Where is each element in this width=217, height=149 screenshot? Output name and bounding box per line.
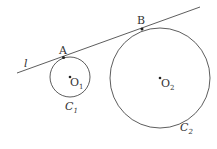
- tangent-point-b: [141, 28, 144, 31]
- point-label-b: B: [137, 15, 145, 26]
- center-label-o2: O2: [161, 78, 175, 92]
- circle-label-c2-sub: 2: [188, 128, 192, 136]
- center-label-o1: O1: [70, 77, 84, 91]
- tangent-circles-diagram: l A B O1 O2 C1 C2: [0, 0, 217, 149]
- tangent-line-l: [17, 7, 200, 73]
- circle-label-c2: C2: [180, 122, 193, 136]
- center-label-o2-sub: 2: [170, 84, 174, 92]
- line-label-l: l: [24, 58, 28, 69]
- point-label-a: A: [59, 45, 67, 56]
- center-label-o1-sub: 1: [79, 83, 83, 91]
- circle-label-c1: C1: [65, 101, 78, 115]
- center-label-o1-text: O: [70, 76, 79, 89]
- circle-label-c1-sub: 1: [73, 107, 77, 115]
- center-label-o2-text: O: [161, 77, 170, 90]
